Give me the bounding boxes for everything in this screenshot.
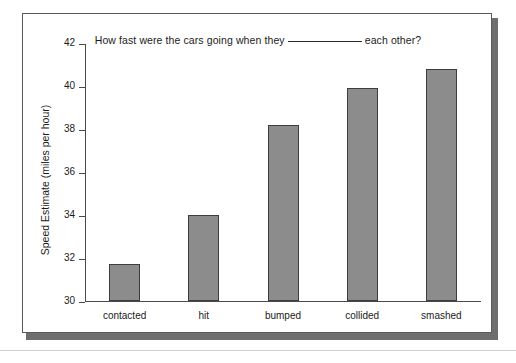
bar-contacted xyxy=(109,264,140,301)
x-label-collided: collided xyxy=(323,310,402,321)
bar-smashed xyxy=(426,69,457,301)
y-tick-label-34: 34 xyxy=(64,209,75,220)
plot-area: 42403836343230 contactedhitbumpedcollide… xyxy=(85,44,481,302)
y-tick-label-36: 36 xyxy=(64,166,75,177)
x-label-contacted: contacted xyxy=(85,310,164,321)
bar-hit xyxy=(188,215,219,301)
y-tick-30: 30 xyxy=(79,302,85,303)
bar-collided xyxy=(347,88,378,301)
y-tick-38: 38 xyxy=(79,130,85,131)
page-divider-rule xyxy=(0,350,516,351)
y-tick-34: 34 xyxy=(79,216,85,217)
y-tick-40: 40 xyxy=(79,87,85,88)
x-label-smashed: smashed xyxy=(402,310,481,321)
y-tick-32: 32 xyxy=(79,259,85,260)
fill-in-blank-line xyxy=(288,32,362,42)
y-axis-title: Speed Estimate (miles per hour) xyxy=(39,0,51,363)
figure-frame: How fast were the cars going when theyea… xyxy=(22,13,492,333)
y-tick-label-40: 40 xyxy=(64,80,75,91)
y-tick-label-42: 42 xyxy=(64,37,75,48)
bar-bumped xyxy=(268,125,299,301)
y-tick-label-38: 38 xyxy=(64,123,75,134)
y-tick-36: 36 xyxy=(79,173,85,174)
y-tick-label-30: 30 xyxy=(64,295,75,306)
y-tick-42: 42 xyxy=(79,44,85,45)
chart-figure: How fast were the cars going when theyea… xyxy=(22,13,494,335)
y-tick-label-32: 32 xyxy=(64,252,75,263)
y-axis-line xyxy=(85,44,86,302)
x-label-hit: hit xyxy=(164,310,243,321)
x-label-bumped: bumped xyxy=(243,310,322,321)
